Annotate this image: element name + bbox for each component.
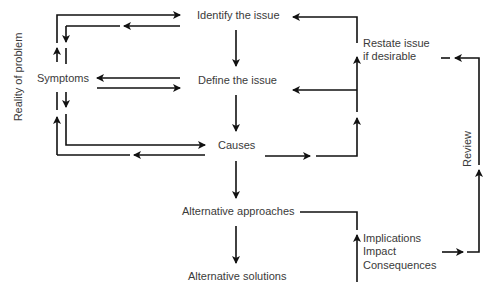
node-alternative-approaches: Alternative approaches: [182, 205, 295, 218]
node-alternative-solutions: Alternative solutions: [188, 270, 286, 283]
node-causes: Causes: [218, 139, 255, 152]
arrow-symptoms-to-identify: [57, 15, 180, 43]
node-restate-line1: Restate issue: [363, 37, 430, 50]
node-restate-line2: if desirable: [363, 50, 416, 63]
node-symptoms: Symptoms: [37, 72, 89, 85]
node-implications: Implications: [363, 232, 421, 245]
label-reality-of-problem: Reality of problem: [12, 29, 24, 125]
label-review: Review: [461, 129, 473, 169]
arrow-approaches-to-implications: [300, 212, 357, 230]
node-define-issue: Define the issue: [198, 74, 277, 87]
node-consequences: Consequences: [363, 259, 436, 272]
arrow-symptoms-to-causes: [66, 114, 205, 145]
arrow-restate-to-identify: [293, 17, 357, 43]
node-identify-issue: Identify the issue: [197, 9, 280, 22]
node-impact: Impact: [363, 245, 396, 258]
